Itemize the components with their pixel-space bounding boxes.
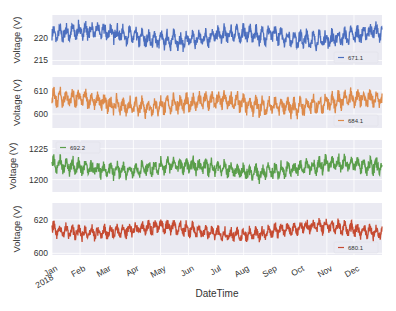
legend-label: 684.1 [348, 118, 364, 124]
y-axis-label: Voltage (V) [11, 17, 22, 64]
x-tick-label: Nov [316, 263, 335, 280]
x-tick-label: Sep [261, 263, 279, 279]
voltage-timeseries-chart: 215220Voltage (V)671.1600610Voltage (V)6… [0, 0, 396, 311]
legend: 680.1 [334, 242, 378, 253]
y-tick-label: 620 [34, 215, 48, 225]
x-tick-label: Oct [289, 263, 306, 279]
panel-671.1: 215220Voltage (V)671.1 [11, 15, 382, 65]
x-tick-label: May [149, 263, 169, 280]
x-tick-label: Jun [179, 263, 196, 279]
legend-label: 671.1 [348, 55, 364, 61]
y-axis-label: Voltage (V) [11, 79, 22, 126]
panel-684.1: 600610Voltage (V)684.1 [11, 77, 382, 128]
x-tick-label: Aug [233, 263, 251, 279]
y-tick-label: 600 [34, 248, 48, 258]
y-tick-label: 1225 [29, 144, 48, 154]
y-tick-label: 220 [34, 33, 48, 43]
legend: 671.1 [334, 52, 378, 63]
panel-680.1: 600620Voltage (V)680.1 [11, 203, 382, 258]
y-tick-label: 600 [34, 109, 48, 119]
x-axis-label: DateTime [196, 288, 239, 299]
y-tick-label: 1200 [29, 175, 48, 185]
x-axis: Jan2018FebMarAprMayJunJulAugSepOctNovDec [34, 263, 362, 290]
x-tick-label: Mar [95, 263, 113, 279]
legend-label: 692.2 [70, 145, 86, 151]
x-tick-label: Dec [343, 263, 362, 280]
legend: 692.2 [56, 142, 100, 153]
panel-692.2: 12001225Voltage (V)692.2 [7, 140, 382, 192]
x-tick-label: Feb [69, 263, 87, 279]
legend-label: 680.1 [348, 245, 364, 251]
y-tick-label: 215 [34, 55, 48, 65]
y-axis-label: Voltage (V) [11, 206, 22, 253]
y-tick-label: 610 [34, 86, 48, 96]
x-tick-label: Jul [208, 263, 223, 277]
legend: 684.1 [334, 115, 378, 126]
y-axis-label: Voltage (V) [7, 143, 18, 190]
x-tick-label: Apr [124, 263, 141, 278]
